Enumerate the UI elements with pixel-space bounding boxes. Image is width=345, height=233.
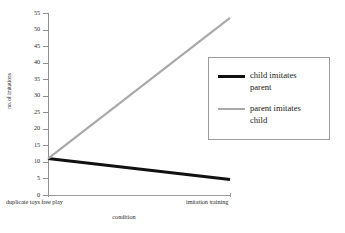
line-chart: 0510152025303540455055 duplicate toys fr… <box>0 0 345 233</box>
legend-label-0-line2: parent <box>250 82 271 92</box>
x-axis-label-left: duplicate toys free play <box>6 198 63 205</box>
x-axis-title: condition <box>0 213 248 220</box>
legend-label-0-line1: child imitates <box>250 70 297 80</box>
series-line-0 <box>48 159 230 180</box>
legend-item-parent-imitates-child: parent imitates child <box>218 103 301 126</box>
legend-label-0: child imitates parent <box>250 70 297 93</box>
legend-label-1-line2: child <box>250 115 267 125</box>
legend-label-1: parent imitates child <box>250 103 301 126</box>
y-axis-title: no. of imitations <box>6 66 12 116</box>
legend-swatch-icon-black <box>218 75 245 78</box>
series-line-1 <box>48 18 230 159</box>
legend: child imitates parent parent imitates ch… <box>208 57 330 140</box>
legend-swatch-icon-gray <box>218 108 245 111</box>
legend-label-1-line1: parent imitates <box>250 103 301 113</box>
x-axis-label-right: imitation training <box>186 198 228 205</box>
legend-item-child-imitates-parent: child imitates parent <box>218 70 297 93</box>
